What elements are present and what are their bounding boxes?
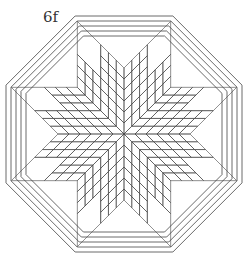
quilt-pattern-drawing	[0, 0, 249, 259]
